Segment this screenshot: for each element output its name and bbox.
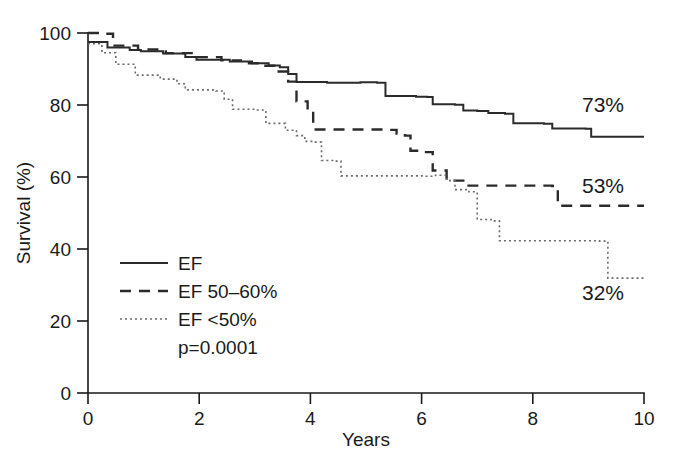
plot-area: 020406080100 0246810 Years Survival (%) … <box>0 0 675 458</box>
x-axis-ticks <box>88 393 644 404</box>
legend-item-ef-50-60: EF 50–60% <box>120 281 277 302</box>
y-tick-label-40: 40 <box>50 239 71 260</box>
y-axis-title: Survival (%) <box>13 162 34 264</box>
y-tick-label-60: 60 <box>50 167 71 188</box>
y-tick-label-20: 20 <box>50 311 71 332</box>
x-tick-label-8: 8 <box>528 408 539 429</box>
endpoint-label-ef: 73% <box>582 93 624 116</box>
legend-label-ef-50-60: EF 50–60% <box>178 281 277 302</box>
x-axis-title: Years <box>342 429 390 450</box>
y-tick-label-80: 80 <box>50 95 71 116</box>
legend-label-ef-under-50: EF <50% <box>178 309 257 330</box>
p-value-label: p=0.0001 <box>178 337 258 358</box>
endpoint-label-ef-50-60: 53% <box>582 174 624 197</box>
survival-chart-figure: 020406080100 0246810 Years Survival (%) … <box>0 0 675 458</box>
legend-label-ef: EF <box>178 253 202 274</box>
y-axis-tick-labels: 020406080100 <box>39 23 71 404</box>
curve-solid <box>88 42 644 137</box>
x-tick-label-4: 4 <box>305 408 316 429</box>
y-axis-ticks <box>77 33 88 393</box>
legend: EF EF 50–60% EF <50% p=0.0001 <box>120 253 277 358</box>
x-axis-tick-labels: 0246810 <box>83 408 655 429</box>
axis-lines <box>88 33 644 393</box>
y-tick-label-100: 100 <box>39 23 71 44</box>
curve-dotted <box>88 44 644 278</box>
y-tick-label-0: 0 <box>60 383 71 404</box>
x-tick-label-0: 0 <box>83 408 94 429</box>
x-tick-label-6: 6 <box>416 408 427 429</box>
curve-dashed <box>88 33 644 206</box>
endpoint-label-ef-under-50: 32% <box>582 281 624 304</box>
survival-curves <box>88 33 644 278</box>
x-tick-label-10: 10 <box>633 408 654 429</box>
legend-item-ef-under-50: EF <50% <box>120 309 257 330</box>
legend-item-ef: EF <box>120 253 202 274</box>
x-tick-label-2: 2 <box>194 408 205 429</box>
